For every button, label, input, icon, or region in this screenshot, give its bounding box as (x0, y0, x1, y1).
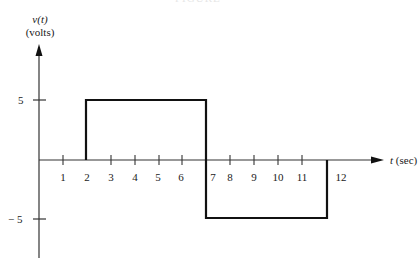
y-tick-label-5: 5 (18, 94, 24, 106)
x-tick-label-2: 2 (77, 171, 97, 183)
x-axis-units: (sec) (396, 154, 417, 166)
signal-waveform (86, 100, 327, 218)
x-tick-label-1: 1 (53, 171, 73, 183)
x-tick-label-11: 11 (292, 171, 312, 183)
x-tick-label-8: 8 (220, 171, 240, 183)
x-tick-label-9: 9 (244, 171, 264, 183)
chart-plot (0, 0, 419, 270)
x-axis-variable: t (390, 154, 393, 166)
x-tick-label-4: 4 (125, 171, 145, 183)
x-tick-label-3: 3 (101, 171, 121, 183)
y-axis-arrow-icon (36, 44, 43, 56)
x-axis-label: t (sec) (390, 154, 417, 166)
y-tick-label-neg5: − 5 (8, 213, 22, 225)
x-axis-arrow-icon (371, 157, 384, 164)
x-tick-label-12: 12 (331, 171, 351, 183)
x-tick-label-5: 5 (148, 171, 168, 183)
x-tick-label-6: 6 (171, 171, 191, 183)
x-tick-label-10: 10 (268, 171, 288, 183)
